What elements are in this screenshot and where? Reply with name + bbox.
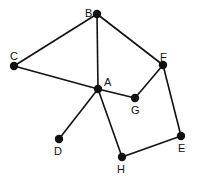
node-label-F: F (160, 51, 167, 63)
node-label-G: G (131, 104, 140, 116)
node-label-A: A (104, 76, 112, 88)
edge-B-C (14, 14, 97, 66)
edge-A-D (59, 89, 98, 139)
node-H (118, 153, 126, 161)
edge-H-E (122, 136, 181, 157)
graph-diagram: ABCDEFGH (0, 0, 197, 181)
edge-B-A (97, 14, 98, 89)
node-label-B: B (85, 7, 92, 19)
node-label-D: D (54, 145, 62, 157)
node-label-C: C (10, 50, 18, 62)
node-label-E: E (178, 142, 185, 154)
node-C (10, 62, 18, 70)
node-B (93, 10, 101, 18)
edge-C-A (14, 66, 98, 89)
edge-B-F (97, 14, 163, 65)
edge-E-F (163, 65, 181, 136)
node-D (55, 135, 63, 143)
node-label-H: H (117, 163, 125, 175)
edge-G-F (135, 65, 163, 98)
node-A (94, 85, 102, 93)
edge-A-G (98, 89, 135, 98)
node-G (131, 94, 139, 102)
edge-A-H (98, 89, 122, 157)
node-E (177, 132, 185, 140)
